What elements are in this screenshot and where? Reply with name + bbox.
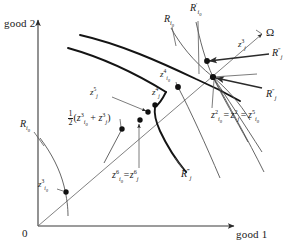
fraction-one-half: 12 bbox=[68, 110, 73, 128]
leader-r-prime-i0 bbox=[198, 21, 199, 74]
figure-canvas: good 2 good 1 0 Ω Ri0 R′i0 z3j R″j z4i0 … bbox=[0, 0, 297, 247]
point-z-j-4 bbox=[152, 102, 157, 107]
thick-curve-outer bbox=[80, 35, 240, 101]
equation-label-z2: z2i0=z2j=z5i0 bbox=[211, 110, 259, 122]
omega-ray bbox=[38, 34, 262, 226]
point-label-z-j-3: z3j bbox=[238, 40, 246, 49]
leader-r-i0-top bbox=[172, 27, 176, 46]
point-z-j-5 bbox=[145, 109, 150, 114]
leader-half-sum bbox=[120, 119, 121, 127]
point-z-i0-4 bbox=[175, 84, 181, 90]
thick-curve-kinked bbox=[155, 92, 186, 172]
diagram-vector-layer bbox=[0, 0, 297, 247]
leader-z-j-5 bbox=[112, 97, 146, 111]
point-label-z-i0-4: z4i0 bbox=[160, 70, 170, 81]
thick-curve-inner bbox=[68, 48, 166, 92]
leader-intersection-horizontal bbox=[213, 74, 257, 77]
omega-label: Ω bbox=[266, 27, 274, 38]
point-label-half-sum: 12(z3i0 + z3j) bbox=[68, 110, 111, 128]
leader-z-i0-3 bbox=[57, 189, 63, 191]
leader-r-i0-left bbox=[34, 132, 44, 146]
leader-r-dprime-j-upper bbox=[209, 54, 269, 61]
y-axis-label: good 2 bbox=[4, 18, 35, 29]
leader-lines-group bbox=[34, 21, 269, 191]
omega-ray-group bbox=[38, 34, 262, 226]
point-z-i0-3 bbox=[63, 189, 68, 194]
point-z-j-3 bbox=[204, 58, 210, 64]
x-axis-label: good 1 bbox=[236, 229, 267, 240]
leader-equation-z2 bbox=[212, 80, 214, 108]
curve-label-r-dprime-j-lower: R″j bbox=[266, 89, 276, 99]
origin-label: 0 bbox=[22, 228, 28, 239]
point-label-z-j-4: z4j bbox=[152, 88, 160, 97]
curve-label-r-prime-i0: R′i0 bbox=[190, 3, 201, 15]
curve-label-r-tprime-j: R‴j bbox=[181, 169, 191, 179]
point-half-sum bbox=[119, 126, 124, 131]
point-z-i0-6 bbox=[137, 117, 142, 122]
curve-label-r-dprime-j-upper: R″j bbox=[272, 48, 282, 58]
point-intersection bbox=[210, 74, 216, 80]
thin-curve-half-sum-tail bbox=[104, 129, 122, 163]
leader-omega-tick bbox=[256, 30, 262, 34]
curve-label-r-i0-top: Ri0 bbox=[164, 14, 174, 26]
point-label-z-j-5: z5j bbox=[90, 88, 98, 97]
equation-label-z6: z6i0=z6j bbox=[112, 170, 138, 182]
curve-label-r-i0-left: Ri0 bbox=[20, 119, 30, 131]
point-label-z-i0-3: z3i0 bbox=[38, 180, 48, 191]
